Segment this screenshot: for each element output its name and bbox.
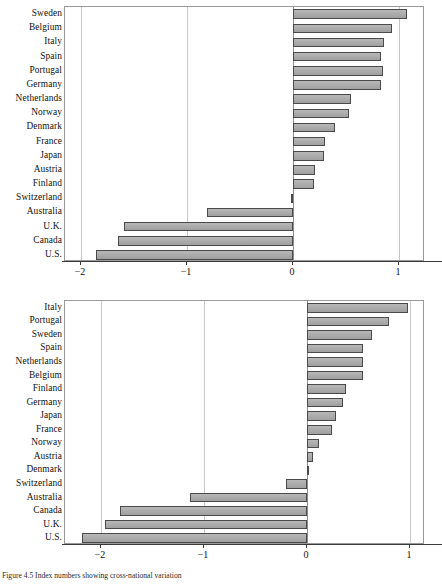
axis-tick — [186, 261, 187, 265]
bar — [293, 179, 314, 189]
bar — [293, 109, 349, 119]
gridline-1 — [399, 7, 400, 260]
bar — [293, 94, 351, 104]
bar — [293, 165, 315, 175]
bar — [293, 123, 335, 133]
bar — [293, 38, 384, 48]
axis-tick-label: −2 — [75, 266, 86, 277]
bar — [307, 439, 319, 449]
category-label: Portugal — [0, 315, 62, 325]
axis-tick — [100, 544, 101, 548]
axis-tick-label: 1 — [396, 266, 401, 277]
bar — [307, 371, 364, 381]
plot-area-top — [64, 6, 424, 261]
bar — [293, 137, 326, 147]
bar — [190, 493, 306, 503]
axis-tick — [203, 544, 204, 548]
bar — [120, 506, 307, 516]
axis-tick — [292, 261, 293, 265]
axis-tick-label: −1 — [198, 549, 209, 560]
axis-tick-label: 0 — [304, 549, 309, 560]
bar — [293, 24, 393, 34]
bar — [307, 303, 408, 313]
bar — [96, 250, 293, 260]
category-label: Australia — [0, 206, 62, 216]
bar — [307, 330, 372, 340]
category-label: Belgium — [0, 370, 62, 380]
category-label: Denmark — [0, 464, 62, 474]
bar — [307, 357, 364, 367]
x-axis-bottom: −2−101 — [0, 544, 426, 566]
category-label: Canada — [0, 505, 62, 515]
category-label: Finland — [0, 178, 62, 188]
chart-panel-bottom: ItalyPortugalSwedenSpainNetherlandsBelgi… — [0, 292, 426, 562]
axis-tick-label: 0 — [290, 266, 295, 277]
category-label: Australia — [0, 492, 62, 502]
bar — [291, 194, 293, 204]
figure-caption: Figure 4.5 Index numbers showing cross-n… — [2, 571, 426, 580]
axis-tick — [306, 544, 307, 548]
bar — [293, 151, 325, 161]
axis-line — [62, 544, 442, 545]
category-label: U.S. — [0, 249, 62, 259]
category-label: Denmark — [0, 121, 62, 131]
category-label: Japan — [0, 150, 62, 160]
category-label: Netherlands — [0, 356, 62, 366]
category-label: Japan — [0, 410, 62, 420]
bar — [307, 466, 309, 476]
category-label: Austria — [0, 451, 62, 461]
bar — [82, 533, 306, 543]
bar — [124, 222, 292, 232]
category-label: Switzerland — [0, 478, 62, 488]
category-label: Belgium — [0, 22, 62, 32]
bar — [293, 80, 381, 90]
bar — [105, 520, 307, 530]
bar — [293, 66, 383, 76]
bar — [293, 52, 381, 62]
bar — [307, 317, 389, 327]
axis-tick-label: −1 — [181, 266, 192, 277]
category-label: Spain — [0, 342, 62, 352]
category-label: U.S. — [0, 532, 62, 542]
category-label: Italy — [0, 36, 62, 46]
category-label: Austria — [0, 164, 62, 174]
category-label: U.K. — [0, 519, 62, 529]
category-label: Spain — [0, 51, 62, 61]
axis-line — [62, 261, 442, 262]
category-label: Norway — [0, 107, 62, 117]
gridline-1 — [410, 301, 411, 543]
axis-tick — [409, 544, 410, 548]
axis-tick-label: −2 — [95, 549, 106, 560]
category-label: Sweden — [0, 8, 62, 18]
category-label: Germany — [0, 397, 62, 407]
category-label: Netherlands — [0, 93, 62, 103]
bar — [307, 398, 343, 408]
bar — [307, 452, 313, 462]
bar — [307, 344, 364, 354]
bar — [307, 384, 346, 394]
bar — [293, 9, 407, 19]
category-label: Sweden — [0, 329, 62, 339]
bar — [307, 425, 333, 435]
category-label: Finland — [0, 383, 62, 393]
category-label: Italy — [0, 302, 62, 312]
axis-tick — [80, 261, 81, 265]
category-label: Germany — [0, 79, 62, 89]
category-label: Norway — [0, 437, 62, 447]
axis-tick-label: 1 — [407, 549, 412, 560]
category-label: Portugal — [0, 65, 62, 75]
gridline--2 — [101, 301, 102, 543]
category-label: Switzerland — [0, 192, 62, 202]
bar — [286, 479, 307, 489]
category-label: U.K. — [0, 221, 62, 231]
bar — [207, 208, 293, 218]
chart-panel-top: SwedenBelgiumItalySpainPortugalGermanyNe… — [0, 0, 426, 292]
gridline--2 — [81, 7, 82, 260]
axis-tick — [398, 261, 399, 265]
x-axis-top: −2−101 — [0, 261, 426, 283]
plot-area-bottom — [64, 300, 424, 544]
category-label: France — [0, 424, 62, 434]
category-label: Canada — [0, 235, 62, 245]
category-label: France — [0, 136, 62, 146]
